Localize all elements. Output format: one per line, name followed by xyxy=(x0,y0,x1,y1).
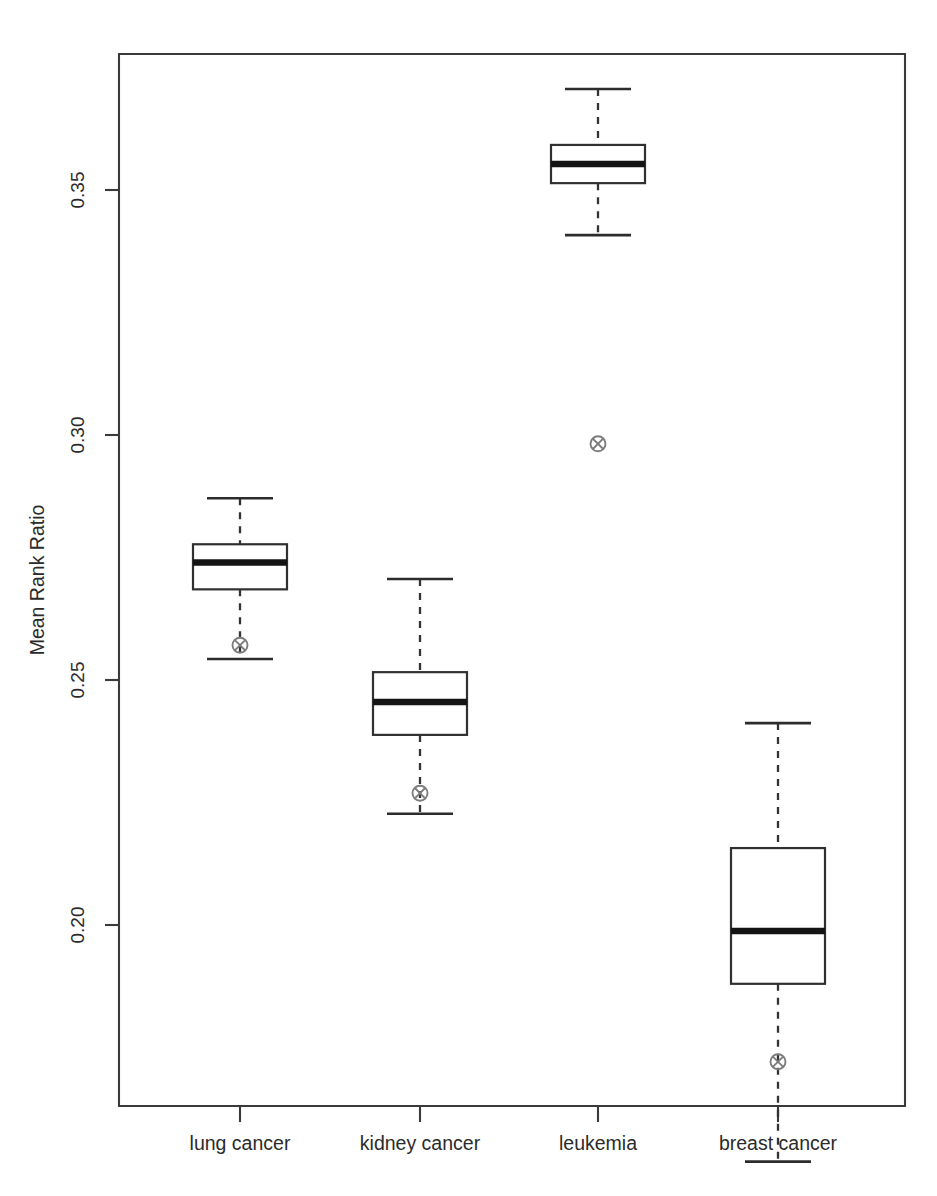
x-tick-label-lung-cancer: lung cancer xyxy=(190,1132,291,1154)
x-axis-ticks xyxy=(240,1106,778,1122)
boxplot-kidney-cancer xyxy=(373,579,467,814)
y-tick-label-2: 0.30 xyxy=(67,417,88,454)
y-axis-title: Mean Rank Ratio xyxy=(26,505,48,656)
y-tick-label-3: 0.35 xyxy=(67,172,88,209)
boxplot-canvas: 0.20 0.25 0.30 0.35 Mean Rank Ratio lung… xyxy=(0,0,937,1196)
marker-leukemia xyxy=(591,436,606,451)
boxplot-leukemia xyxy=(551,89,645,451)
y-tick-labels: 0.20 0.25 0.30 0.35 xyxy=(67,172,88,944)
x-tick-labels: lung cancer kidney cancer leukemia breas… xyxy=(190,1132,838,1154)
y-tick-label-1: 0.25 xyxy=(67,662,88,699)
x-tick-label-leukemia: leukemia xyxy=(559,1132,637,1154)
y-axis-ticks xyxy=(105,190,119,925)
x-tick-label-kidney-cancer: kidney cancer xyxy=(360,1132,481,1154)
box-breast-cancer xyxy=(731,848,825,984)
boxplot-lung-cancer xyxy=(193,498,287,659)
marker-kidney-cancer xyxy=(413,786,428,801)
y-tick-label-0: 0.20 xyxy=(67,907,88,944)
boxplot-figure: 0.20 0.25 0.30 0.35 Mean Rank Ratio lung… xyxy=(0,0,937,1196)
boxplot-series xyxy=(193,89,825,1162)
boxplot-breast-cancer xyxy=(731,723,825,1162)
box-lung-cancer xyxy=(193,544,287,589)
